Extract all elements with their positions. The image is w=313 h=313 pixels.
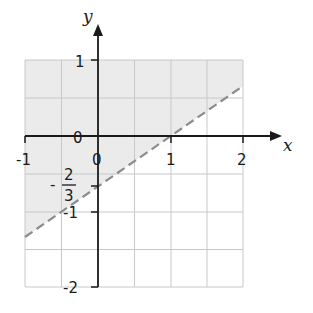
- x-tick-minus1: -1: [16, 151, 31, 169]
- x-axis-arrow-icon: [270, 131, 282, 141]
- y-axis-label: y: [82, 6, 93, 26]
- inequality-graph: y x -1 0 1 2 1 0 -1 -2 - 2 3: [0, 0, 313, 313]
- y-axis-arrow-icon: [93, 24, 103, 36]
- fraction-sign: -: [50, 176, 55, 194]
- x-tick-0: 0: [92, 151, 102, 169]
- fraction-numerator: 2: [64, 166, 74, 184]
- x-tick-2: 2: [237, 151, 247, 169]
- fraction-denominator: 3: [64, 187, 74, 205]
- y-tick-minus1: -1: [63, 204, 78, 222]
- y-tick-minus2: -2: [63, 279, 78, 297]
- y-tick-0: 0: [73, 129, 83, 147]
- x-tick-1: 1: [166, 151, 176, 169]
- y-tick-1: 1: [75, 53, 85, 71]
- x-axis-label: x: [283, 135, 293, 155]
